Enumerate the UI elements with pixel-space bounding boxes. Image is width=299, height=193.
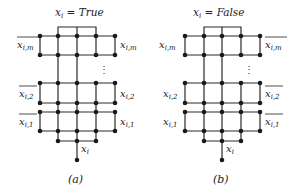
panel-b-left-labels: xi,m xi,2 xi,1	[159, 39, 178, 129]
panel-a-caption: (a)	[68, 173, 83, 186]
panel-a-ellipsis: ⋮	[99, 64, 109, 75]
label-x-i-bottom: xi	[226, 143, 234, 156]
panel-b-caption: (b)	[213, 173, 229, 186]
panel-b-title: xi = False	[193, 6, 244, 20]
label-x-i-2: xi,2	[163, 88, 178, 101]
label-neg-x-i-2: xi,2	[19, 88, 34, 101]
panel-a: xi = True	[17, 6, 137, 186]
label-x-i-1: xi,1	[120, 116, 135, 129]
label-neg-x-i-1: xi,1	[19, 116, 34, 129]
panel-a-right-labels: xi,m xi,2 xi,1	[120, 39, 137, 129]
panel-b-right-labels: xi,m xi,2 xi,1	[265, 37, 287, 129]
label-x-i-bottom: xi	[81, 143, 89, 156]
panel-b: xi = False	[159, 6, 287, 186]
panel-a-title: xi = True	[55, 6, 104, 20]
label-x-i-m: xi,m	[159, 39, 176, 52]
label-neg-x-i-m: xi,m	[265, 39, 282, 52]
gadget-figure: xi = True	[0, 0, 299, 193]
label-x-i-2: xi,2	[120, 88, 135, 101]
panel-a-left-labels: xi,m xi,2 xi,1	[17, 37, 38, 129]
label-x-i-m: xi,m	[120, 39, 137, 52]
label-neg-x-i-1: xi,1	[265, 116, 280, 129]
label-neg-x-i-2: xi,2	[265, 88, 280, 101]
panel-b-ellipsis: ⋮	[244, 64, 254, 75]
label-neg-x-i-m: xi,m	[17, 39, 34, 52]
label-x-i-1: xi,1	[163, 116, 178, 129]
